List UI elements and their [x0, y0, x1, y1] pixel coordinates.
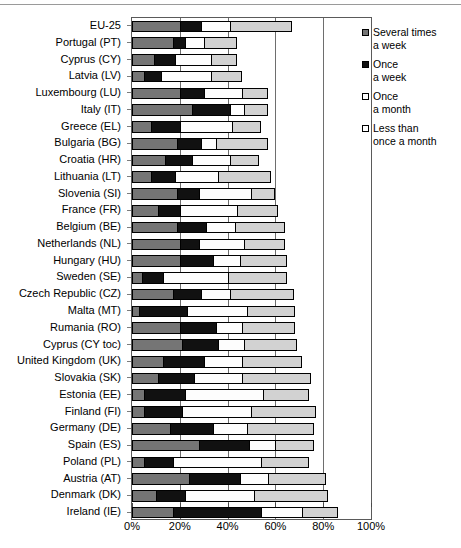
stacked-bar	[132, 121, 261, 133]
category-tick	[127, 411, 131, 412]
bar-segment	[132, 289, 173, 301]
category-tick	[127, 277, 131, 278]
bar-segment	[173, 37, 185, 49]
bar-segment	[242, 356, 302, 368]
bar-segment	[218, 171, 271, 183]
x-tick-mark	[371, 503, 372, 507]
bar-segment	[199, 188, 252, 200]
category-tick	[127, 243, 131, 244]
bar-segment	[132, 473, 189, 485]
bar-segment	[189, 473, 239, 485]
category-label: Bulgaria (BG)	[0, 134, 126, 151]
legend-label: Several times a week	[373, 26, 437, 51]
category-tick	[127, 344, 131, 345]
bar-segment	[216, 322, 242, 334]
category-label: Poland (PL)	[0, 453, 126, 470]
bar-segment	[177, 138, 201, 150]
bar-segment	[185, 389, 264, 401]
plot-area	[131, 17, 372, 520]
bar-segment	[132, 457, 144, 469]
category-label: Netherlands (NL)	[0, 235, 126, 252]
stacked-bar	[132, 239, 285, 251]
category-tick	[127, 461, 131, 462]
legend-label: Less than once a month	[373, 122, 437, 147]
bar-segment	[261, 507, 302, 519]
category-label: Rumania (RO)	[0, 319, 126, 336]
stacked-bar	[132, 155, 259, 167]
stacked-bar	[132, 188, 275, 200]
bar-segment	[132, 155, 165, 167]
bar-segment	[228, 272, 288, 284]
category-tick	[127, 76, 131, 77]
category-tick	[127, 92, 131, 93]
stacked-bar	[132, 171, 271, 183]
bar-segment	[201, 21, 230, 33]
stacked-bar	[132, 373, 311, 385]
legend-item: Once a month	[362, 90, 461, 115]
stacked-bar	[132, 440, 314, 452]
category-label: Ireland (IE)	[0, 503, 126, 520]
category-tick	[127, 310, 131, 311]
bar-segment	[132, 373, 158, 385]
bar-segment	[132, 239, 180, 251]
bar-segment	[251, 406, 316, 418]
bar-segment	[163, 356, 204, 368]
legend-item: Once a week	[362, 58, 461, 83]
bar-segment	[132, 222, 177, 234]
bar-segment	[161, 71, 211, 83]
bar-segment	[132, 171, 151, 183]
legend-swatch-icon	[362, 29, 369, 36]
bar-segment	[180, 255, 213, 267]
category-label: Czech Republic (CZ)	[0, 285, 126, 302]
category-tick	[127, 210, 131, 211]
bar-segment	[170, 423, 213, 435]
category-label: Sweden (SE)	[0, 268, 126, 285]
bar-segment	[132, 37, 173, 49]
category-tick	[127, 109, 131, 110]
bar-segment	[275, 440, 313, 452]
bar-segment	[235, 222, 285, 234]
bar-segment	[244, 239, 285, 251]
bar-segment	[230, 21, 292, 33]
stacked-bar	[132, 222, 285, 234]
category-label: Luxembourg (LU)	[0, 84, 126, 101]
bar-segment	[199, 440, 249, 452]
category-label: Austria (AT)	[0, 470, 126, 487]
bar-segment	[187, 306, 247, 318]
bar-segment	[132, 406, 144, 418]
x-tick-label: 20%	[169, 520, 191, 532]
category-tick	[127, 377, 131, 378]
x-tick-mark	[228, 503, 229, 507]
bar-segment	[199, 239, 244, 251]
legend-swatch-icon	[362, 93, 369, 100]
bar-segment	[263, 389, 308, 401]
x-axis-tick-labels: 0%20%40%60%80%100%	[0, 520, 461, 536]
bar-segment	[132, 423, 170, 435]
bar-segment	[192, 104, 230, 116]
bar-segment	[142, 272, 164, 284]
bar-segment	[240, 473, 269, 485]
bar-segment	[261, 457, 309, 469]
stacked-bar	[132, 423, 314, 435]
bar-segment	[132, 272, 142, 284]
bar-segment	[201, 138, 215, 150]
bar-segment	[182, 406, 251, 418]
bar-segment	[240, 255, 288, 267]
stacked-bar	[132, 322, 295, 334]
category-label: Denmark (DK)	[0, 486, 126, 503]
stacked-bar	[132, 406, 316, 418]
category-label: Belgium (BE)	[0, 218, 126, 235]
bar-segment	[251, 188, 275, 200]
stacked-bar	[132, 205, 278, 217]
top-divider-rule	[0, 4, 461, 5]
category-label: Spain (ES)	[0, 436, 126, 453]
bar-segment	[132, 21, 180, 33]
category-label: Estonia (EE)	[0, 386, 126, 403]
bar-segment	[151, 121, 180, 133]
bar-segment	[132, 88, 180, 100]
stacked-bar	[132, 272, 287, 284]
bar-segment	[177, 222, 206, 234]
bar-segment	[144, 457, 173, 469]
legend-label: Once a week	[373, 58, 406, 83]
bar-segment	[132, 306, 139, 318]
